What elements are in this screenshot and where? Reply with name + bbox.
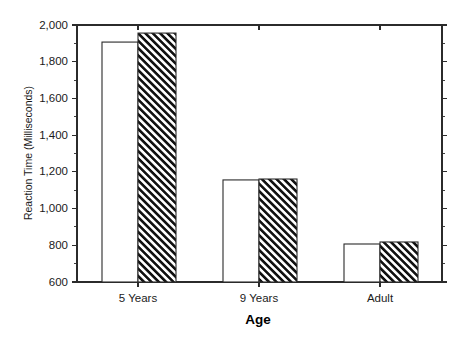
bars-container [102, 33, 418, 282]
y-axis-title: Reaction Time (Milliseconds) [22, 86, 34, 220]
bar-chart: 6008001,0001,2001,4001,6001,8002,000 5 Y… [0, 0, 470, 339]
y-tick-label: 1,400 [39, 129, 68, 141]
y-tick-label: 1,800 [39, 55, 68, 67]
bar-open [223, 180, 259, 282]
y-tick-label: 600 [49, 276, 68, 288]
bar-open [344, 244, 380, 282]
bar-open [102, 42, 138, 282]
bar-hatched [259, 179, 297, 282]
y-tick-label: 1,000 [39, 202, 68, 214]
bar-hatched [380, 242, 418, 282]
chart-figure: 6008001,0001,2001,4001,6001,8002,000 5 Y… [0, 0, 470, 339]
bar-hatched [138, 33, 176, 282]
y-tick-label: 2,000 [39, 19, 68, 31]
x-axis-title: Age [245, 312, 271, 327]
y-tick-label: 1,200 [39, 165, 68, 177]
y-tick-label: 800 [49, 239, 68, 251]
x-tick-label: Adult [367, 292, 394, 304]
x-tick-labels: 5 Years9 YearsAdult [119, 292, 394, 304]
x-tick-label: 9 Years [240, 292, 279, 304]
y-tick-label: 1,600 [39, 92, 68, 104]
x-tick-label: 5 Years [119, 292, 158, 304]
